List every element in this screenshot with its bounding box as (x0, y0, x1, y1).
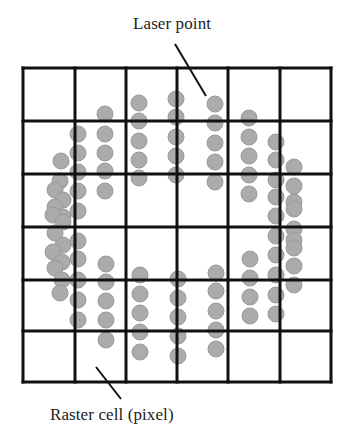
laser-point-dot (98, 332, 114, 348)
laser-point-dot (70, 233, 86, 249)
laser-point-dot (207, 96, 223, 112)
laser-point-dot (241, 129, 257, 145)
laser-point-dot (97, 145, 113, 161)
laser-point-dot (70, 312, 86, 328)
laser-point-dot (207, 135, 223, 151)
laser-point-dot (241, 148, 257, 164)
laser-point-dot (268, 134, 284, 150)
laser-point-dot (131, 95, 147, 111)
laser-point-dot (70, 292, 86, 308)
laser-point-dot (70, 126, 86, 142)
laser-point-dot (131, 133, 147, 149)
laser-point-dot (286, 240, 302, 256)
laser-point-dot (208, 303, 224, 319)
laser-point-dot (207, 115, 223, 131)
laser-point-dot (286, 201, 302, 217)
laser-point-dot (97, 163, 113, 179)
laser-point-dot (98, 312, 114, 328)
laser-point-dot (286, 178, 302, 194)
laser-point-dot (131, 170, 147, 186)
laser-point-dot (70, 145, 86, 161)
laser-point-dot (131, 152, 147, 168)
laser-point-dot (97, 126, 113, 142)
laser-point-dot (241, 110, 257, 126)
laser-point-dot (242, 251, 258, 267)
laser-point-dot (268, 152, 284, 168)
laser-point-dot (98, 274, 114, 290)
laser-point-dot (132, 344, 148, 360)
laser-point-dot (268, 208, 284, 224)
laser-point-dot (268, 228, 284, 244)
laser-point-label: Laser point (133, 14, 211, 34)
laser-point-dot (241, 186, 257, 202)
laser-point-dot (242, 289, 258, 305)
laser-point-dot (53, 153, 69, 169)
laser-point-dot (132, 286, 148, 302)
laser-point-dot (268, 287, 284, 303)
leader-lines (96, 44, 206, 399)
laser-point-dot (208, 283, 224, 299)
diagram-canvas (0, 0, 347, 446)
laser-point-dot (208, 341, 224, 357)
laser-point-dot (207, 154, 223, 170)
raster-cell-label: Raster cell (pixel) (50, 405, 174, 425)
laser-point-dot (70, 183, 86, 199)
laser-point-dot (286, 258, 302, 274)
laser-point-dot (242, 270, 258, 286)
laser-point-dot (207, 174, 223, 190)
laser-point-leader (175, 44, 206, 96)
laser-point-dot (268, 306, 284, 322)
laser-point-dot (70, 251, 86, 267)
laser-point-dot (70, 203, 86, 219)
laser-point-dot (70, 164, 86, 180)
laser-point-dot (97, 183, 113, 199)
laser-point-dot (98, 256, 114, 272)
laser-point-dot (268, 247, 284, 263)
laser-point-dot (132, 305, 148, 321)
laser-point-dot (242, 308, 258, 324)
laser-point-dot (98, 293, 114, 309)
laser-point-dot (52, 285, 68, 301)
laser-point-dot (268, 189, 284, 205)
raster-diagram: Laser point Raster cell (pixel) (0, 0, 347, 446)
